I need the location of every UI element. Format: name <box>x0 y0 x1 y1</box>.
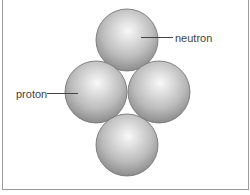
particle-top-neutron <box>96 9 158 71</box>
particle-right <box>128 61 190 123</box>
nucleus-diagram: neutron proton <box>0 0 250 195</box>
proton-label: proton <box>16 88 47 100</box>
particle-bottom <box>96 114 158 176</box>
particle-left-proton <box>65 61 127 123</box>
neutron-label: neutron <box>175 32 212 44</box>
